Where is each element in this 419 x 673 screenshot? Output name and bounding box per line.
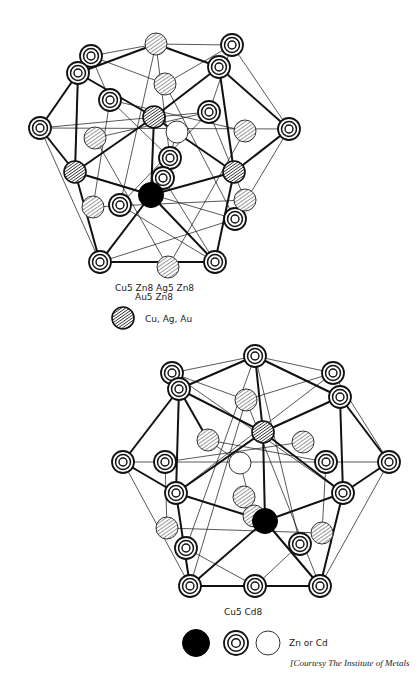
bottom-formula-line1: Cu5 Cd8 bbox=[224, 607, 262, 617]
top-formula-line2: Au5 Zn8 bbox=[135, 292, 173, 302]
ring-atom-icon bbox=[175, 537, 197, 559]
bottom-legend-black-atom-icon bbox=[183, 630, 210, 657]
bond bbox=[263, 432, 265, 521]
dark-hatched-atom-icon bbox=[64, 161, 86, 183]
crystal-structure-figure bbox=[0, 0, 419, 673]
hatched-atom-icon bbox=[156, 517, 178, 539]
ring-atom-icon bbox=[322, 362, 344, 384]
bottom-legend-ring-atom-icon bbox=[224, 631, 248, 655]
ring-atom-icon bbox=[109, 194, 131, 216]
open-atom-icon bbox=[229, 452, 251, 474]
ring-atom-icon bbox=[224, 208, 246, 230]
open-atom-icon bbox=[256, 631, 280, 655]
bond bbox=[255, 356, 333, 373]
ring-atom-icon bbox=[378, 451, 400, 473]
bond bbox=[340, 397, 389, 462]
dark-hatched-atom-icon bbox=[143, 106, 165, 128]
bond bbox=[179, 356, 255, 389]
hatched-atom-icon bbox=[292, 431, 314, 453]
bond bbox=[75, 73, 78, 172]
ring-atom-icon bbox=[315, 451, 337, 473]
ring-atom-icon bbox=[329, 386, 351, 408]
hatched-atom-icon bbox=[234, 189, 256, 211]
hatched-atom-icon bbox=[145, 33, 167, 55]
bond bbox=[340, 397, 343, 493]
top-legend-label: Cu, Ag, Au bbox=[145, 314, 192, 324]
bond bbox=[176, 389, 179, 493]
black-atom-icon bbox=[183, 630, 210, 657]
ring-atom-icon bbox=[159, 147, 181, 169]
ring-atom-icon bbox=[278, 118, 300, 140]
top-legend-hatched-icon bbox=[112, 307, 134, 329]
ring-atom-icon bbox=[289, 533, 311, 555]
ring-atom-icon bbox=[221, 34, 243, 56]
hatched-atom-icon bbox=[235, 389, 257, 411]
ring-atom-icon bbox=[112, 451, 134, 473]
hatched-atom-icon bbox=[197, 429, 219, 451]
ring-atom-icon bbox=[244, 345, 266, 367]
ring-atom-icon bbox=[67, 62, 89, 84]
bond bbox=[123, 389, 179, 462]
black-atom-icon bbox=[253, 509, 278, 534]
hatched-atom-icon bbox=[234, 120, 256, 142]
bond bbox=[219, 67, 234, 172]
hatched-atom-icon bbox=[154, 73, 176, 95]
ring-atom-icon bbox=[99, 89, 121, 111]
ring-atom-icon bbox=[244, 575, 266, 597]
dark-hatched-atom-icon bbox=[252, 421, 274, 443]
figure-credit: [Courtesy The Institute of Metals bbox=[290, 658, 410, 668]
ring-atom-icon bbox=[89, 251, 111, 273]
bottom-legend-open-label: Zn or Cd bbox=[289, 638, 328, 648]
hatched-atom-icon bbox=[84, 127, 106, 149]
hatched-atom-icon bbox=[82, 196, 104, 218]
ring-atom-icon bbox=[29, 117, 51, 139]
bottom-structure-atoms bbox=[112, 345, 400, 597]
hatched-atom-icon bbox=[311, 522, 333, 544]
ring-atom-icon bbox=[168, 378, 190, 400]
bottom-legend-open-atom-icon bbox=[256, 631, 280, 655]
ring-atom-icon bbox=[208, 56, 230, 78]
hatched-atom-icon bbox=[157, 256, 179, 278]
bond bbox=[219, 67, 289, 129]
dark-hatched-atom-icon bbox=[223, 161, 245, 183]
ring-atom-icon bbox=[309, 575, 331, 597]
ring-atom-icon bbox=[154, 451, 176, 473]
ring-atom-icon bbox=[332, 482, 354, 504]
bond bbox=[172, 356, 255, 373]
ring-atom-icon bbox=[165, 482, 187, 504]
bond bbox=[263, 397, 340, 432]
bond bbox=[320, 462, 389, 586]
ring-atom-icon bbox=[224, 631, 248, 655]
hatched-atom-icon bbox=[233, 486, 255, 508]
black-atom-icon bbox=[139, 183, 164, 208]
ring-atom-icon bbox=[198, 101, 220, 123]
dark-hatched-atom-icon bbox=[112, 307, 134, 329]
bond bbox=[156, 44, 170, 158]
open-atom-icon bbox=[166, 121, 188, 143]
ring-atom-icon bbox=[179, 575, 201, 597]
bond bbox=[163, 178, 215, 262]
ring-atom-icon bbox=[204, 251, 226, 273]
